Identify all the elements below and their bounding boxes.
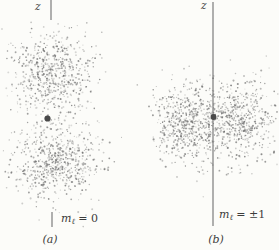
z-axis-label-b: z — [201, 0, 207, 11]
panel-caption-a: (a) — [39, 234, 61, 245]
m-value-a: = 0 — [75, 212, 98, 225]
m-symbol-a: m — [61, 212, 71, 225]
electron-cloud-a — [1, 21, 122, 227]
nucleus-dot-b — [211, 114, 217, 120]
electron-cloud-b — [137, 55, 279, 197]
z-axis-label-a: z — [35, 1, 41, 12]
orbital-probability-figure: z mℓ = 0 (a) z mℓ = ±1 (b) — [0, 0, 279, 250]
m-symbol-b: m — [219, 208, 229, 221]
m-quantum-label-b: mℓ = ±1 — [219, 209, 265, 220]
panel-caption-b: (b) — [205, 234, 227, 245]
m-value-b: = ±1 — [233, 208, 265, 221]
nucleus-dot-a — [44, 115, 50, 121]
m-quantum-label-a: mℓ = 0 — [61, 213, 98, 224]
